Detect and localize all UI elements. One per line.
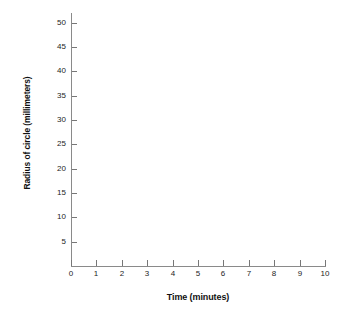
y-tick-mark [72, 242, 77, 243]
x-tick-label: 4 [161, 269, 185, 278]
x-tick-label: 2 [110, 269, 134, 278]
plot-area [72, 13, 325, 266]
y-tick-label: 15 [57, 189, 66, 197]
y-tick-label: 40 [57, 67, 66, 75]
x-tick-label: 1 [84, 269, 108, 278]
x-tick-mark [71, 260, 72, 266]
y-tick-label: 30 [57, 116, 66, 124]
y-axis-title: Radius of circle (millimeters) [18, 0, 36, 266]
y-tick-label: 20 [57, 165, 66, 173]
y-tick-label: 50 [57, 19, 66, 27]
y-tick-label: 35 [57, 92, 66, 100]
x-tick-label: 10 [313, 269, 337, 278]
x-tick-mark [122, 260, 123, 266]
y-tick-mark [72, 23, 77, 24]
x-tick-mark [223, 260, 224, 266]
x-tick-mark [325, 260, 326, 266]
y-tick-mark [72, 217, 77, 218]
x-tick-mark [249, 260, 250, 266]
y-tick-label: 5 [62, 238, 66, 246]
x-axis-title: Time (minutes) [71, 292, 325, 302]
x-tick-mark [147, 260, 148, 266]
x-tick-label: 9 [288, 269, 312, 278]
y-tick-mark [72, 169, 77, 170]
x-axis-line [71, 266, 326, 267]
y-tick-mark [72, 71, 77, 72]
x-tick-label: 0 [59, 269, 83, 278]
y-tick-mark [72, 96, 77, 97]
y-tick-label: 10 [57, 213, 66, 221]
x-tick-label: 5 [186, 269, 210, 278]
x-tick-label: 8 [262, 269, 286, 278]
x-tick-label: 7 [237, 269, 261, 278]
y-tick-label: 25 [57, 140, 66, 148]
x-tick-mark [198, 260, 199, 266]
blank-graph: Radius of circle (millimeters) 510152025… [0, 0, 345, 321]
y-tick-mark [72, 120, 77, 121]
y-tick-mark [72, 193, 77, 194]
x-tick-label: 3 [135, 269, 159, 278]
x-tick-mark [274, 260, 275, 266]
y-tick-mark [72, 47, 77, 48]
y-tick-mark [72, 144, 77, 145]
x-tick-mark [173, 260, 174, 266]
x-tick-mark [300, 260, 301, 266]
y-tick-label: 45 [57, 43, 66, 51]
x-tick-mark [96, 260, 97, 266]
x-tick-label: 6 [211, 269, 235, 278]
